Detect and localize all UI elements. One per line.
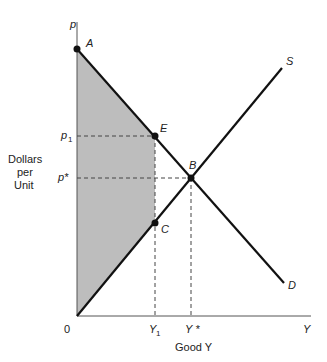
point-a [74, 46, 81, 53]
supply-demand-chart: p A E B C S D p 1 p* Dollars per Unit 0 … [0, 0, 327, 362]
label-e: E [160, 122, 168, 134]
label-d: D [288, 279, 296, 291]
x-axis-symbol: Y [303, 323, 311, 335]
label-s: S [286, 55, 294, 67]
point-b [188, 175, 195, 182]
label-a: A [85, 37, 93, 49]
point-c [152, 220, 159, 227]
y-title-line1: Dollars [8, 153, 43, 165]
label-b: B [189, 159, 196, 171]
origin-label: 0 [64, 323, 70, 335]
label-pstar: p* [57, 171, 69, 183]
point-e [152, 133, 159, 140]
label-p1-subscript: 1 [68, 135, 73, 144]
label-ystar: Y * [185, 323, 200, 335]
label-c: C [161, 223, 169, 235]
p-axis-label: p [69, 18, 76, 30]
shaded-surplus-region [77, 49, 155, 316]
label-p1: p [60, 129, 67, 141]
label-y1-subscript: 1 [156, 329, 161, 338]
y-title-line3: Unit [14, 179, 34, 191]
y-title-line2: per [17, 166, 33, 178]
x-axis-title: Good Y [175, 341, 213, 353]
